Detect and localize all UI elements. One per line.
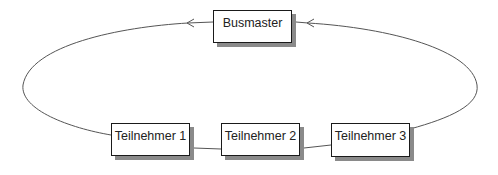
teilnehmer-1-node[interactable]: Teilnehmer 1 [111, 123, 190, 156]
teilnehmer-1-label: Teilnehmer 1 [112, 129, 189, 143]
link-2-3 [304, 145, 331, 148]
teilnehmer-3-node[interactable]: Teilnehmer 3 [331, 123, 410, 157]
teilnehmer-2-label: Teilnehmer 2 [222, 129, 299, 143]
busmaster-label: Busmaster [214, 16, 291, 30]
ring-arc-left [23, 22, 213, 135]
teilnehmer-3-label: Teilnehmer 3 [332, 129, 409, 143]
ring-arc-right [296, 22, 477, 129]
link-1-2 [194, 148, 221, 149]
busmaster-node[interactable]: Busmaster [213, 10, 292, 43]
teilnehmer-2-node[interactable]: Teilnehmer 2 [221, 123, 300, 156]
